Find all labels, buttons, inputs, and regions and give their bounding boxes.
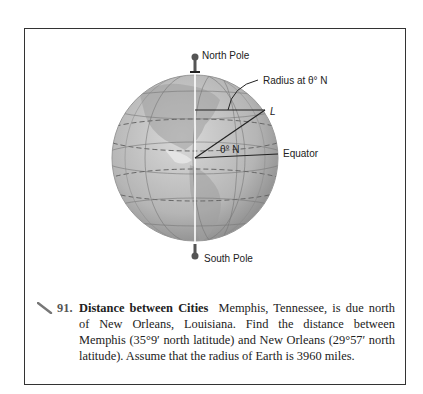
globe-diagram: North Pole South Pole Radius at θ° N L θ… xyxy=(0,0,423,290)
equator-label: Equator xyxy=(283,148,319,159)
radius-label: Radius at θ° N xyxy=(263,75,328,86)
south-pole-label: South Pole xyxy=(204,253,253,264)
angle-label: θ° N xyxy=(220,144,240,155)
exercise-title: Distance between Cities xyxy=(79,301,208,315)
exercise-text: Distance between CitiesMemphis, Tennesse… xyxy=(79,300,395,364)
north-pole-label: North Pole xyxy=(202,50,250,61)
point-l-label: L xyxy=(270,106,276,117)
exercise-number: 91. xyxy=(57,300,73,316)
exercise-91: 91. Distance between CitiesMemphis, Tenn… xyxy=(45,300,395,364)
pencil-icon xyxy=(37,302,53,314)
south-pole-marker xyxy=(192,244,199,260)
north-pole-marker xyxy=(190,54,200,74)
